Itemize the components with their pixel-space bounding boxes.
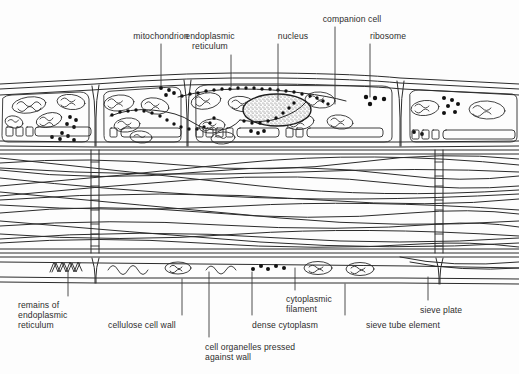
mitochondrion (56, 93, 85, 111)
label-cell-organelles-pressed-against-wall: cell organelles pressed against wall (205, 342, 295, 362)
label-sieve-plate: sieve plate (420, 305, 462, 315)
mitochondrion (11, 95, 47, 116)
bottom-row-cross-walls (92, 258, 443, 284)
label-cellulose-cell-wall: cellulose cell wall (108, 320, 176, 330)
flattened-mitochondrion (346, 263, 374, 276)
label-remains-of-endoplasmic-reticulum: remains of endoplasmic reticulum (18, 300, 67, 331)
cytoplasmic-filaments (0, 156, 519, 248)
label-cytoplasmic-filament: cytoplasmic filament (286, 294, 332, 314)
phloem-diagram-svg (0, 0, 519, 374)
mitochondrion (469, 100, 506, 120)
bottom-row-cell-walls (0, 257, 519, 284)
mitochondrion (103, 94, 134, 113)
label-ribosome: ribosome (370, 31, 406, 41)
label-mitochondrion: mitochondrion (133, 31, 188, 41)
mitochondrion (140, 96, 170, 116)
vesicle-stacks (6, 127, 515, 139)
diagram-canvas: mitochondrion endoplasmic reticulum nucl… (0, 0, 519, 374)
mitochondrion (410, 99, 439, 117)
label-endoplasmic-reticulum: endoplasmic reticulum (185, 31, 234, 51)
label-dense-cytoplasm: dense cytoplasm (252, 320, 318, 330)
leader-lines (68, 27, 428, 337)
label-sieve-tube-element: sieve tube element (366, 320, 440, 330)
flattened-mitochondrion (304, 262, 332, 275)
remains-of-endoplasmic-reticulum (50, 262, 82, 272)
label-companion-cell: companion cell (323, 14, 382, 24)
mitochondrion (198, 118, 225, 134)
label-nucleus: nucleus (278, 31, 308, 41)
